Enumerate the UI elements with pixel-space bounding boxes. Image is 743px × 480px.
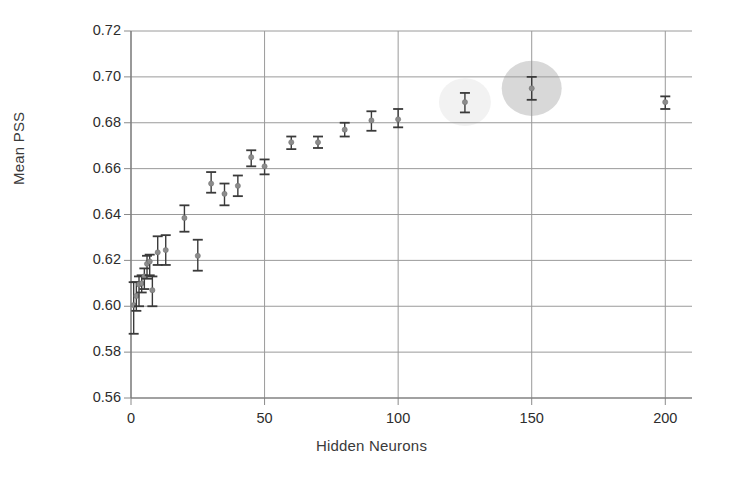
data-point-group <box>206 172 216 193</box>
data-point-group <box>147 276 157 306</box>
data-marker <box>289 140 294 145</box>
data-point-group <box>313 137 323 148</box>
y-tick-label: 0.64 <box>63 206 121 222</box>
data-marker <box>195 253 200 258</box>
data-point-group <box>233 176 243 197</box>
data-point-group <box>340 123 350 137</box>
data-point-group <box>129 282 139 334</box>
x-axis-title: Hidden Neurons <box>0 437 743 454</box>
data-marker <box>315 140 320 145</box>
data-marker <box>139 281 144 286</box>
data-point-group <box>393 109 403 127</box>
data-marker <box>249 155 254 160</box>
data-marker <box>235 183 240 188</box>
scatter-chart: Mean PSS Hidden Neurons 0.560.580.600.62… <box>0 0 743 480</box>
data-point-group <box>660 96 670 109</box>
data-marker <box>182 215 187 220</box>
x-tick-label: 200 <box>635 410 695 426</box>
data-point-group <box>179 205 189 231</box>
y-tick-label: 0.72 <box>63 22 121 38</box>
data-marker <box>163 247 168 252</box>
x-tick-label: 50 <box>235 410 295 426</box>
y-tick-label: 0.60 <box>63 297 121 313</box>
data-marker <box>209 181 214 186</box>
data-marker <box>262 164 267 169</box>
y-axis-title: Mean PSS <box>10 112 27 185</box>
y-tick-label: 0.58 <box>63 343 121 359</box>
data-point-group <box>260 159 270 174</box>
data-marker <box>529 86 534 91</box>
data-marker <box>342 127 347 132</box>
y-tick-label: 0.70 <box>63 68 121 84</box>
y-tick-label: 0.56 <box>63 389 121 405</box>
data-marker <box>155 250 160 255</box>
data-marker <box>147 259 152 264</box>
data-point-group <box>246 150 256 166</box>
data-marker <box>222 191 227 196</box>
y-tick-label: 0.66 <box>63 160 121 176</box>
data-marker <box>134 293 139 298</box>
data-point-group <box>286 137 296 150</box>
x-tick-label: 0 <box>101 410 161 426</box>
data-point-group <box>366 111 376 130</box>
x-tick-label: 150 <box>502 410 562 426</box>
data-marker <box>396 117 401 122</box>
data-marker <box>369 118 374 123</box>
data-point-group <box>193 240 203 271</box>
data-marker <box>663 100 668 105</box>
y-tick-label: 0.68 <box>63 114 121 130</box>
x-tick-label: 100 <box>368 410 428 426</box>
y-tick-label: 0.62 <box>63 251 121 267</box>
data-marker <box>150 288 155 293</box>
data-point-group <box>220 184 230 206</box>
data-marker <box>462 100 467 105</box>
